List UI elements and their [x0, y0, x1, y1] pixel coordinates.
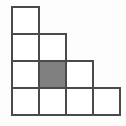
grid-cell — [92, 87, 121, 116]
grid-cell — [11, 6, 40, 35]
grid-cell — [11, 33, 40, 62]
grid-cell-shaded — [38, 60, 67, 89]
grid-cell — [11, 60, 40, 89]
grid-cell — [11, 87, 40, 116]
grid-cell — [65, 87, 94, 116]
grid-cell — [38, 33, 67, 62]
grid-cell — [38, 87, 67, 116]
staircase-grid-diagram — [0, 0, 126, 126]
grid-cell — [65, 60, 94, 89]
